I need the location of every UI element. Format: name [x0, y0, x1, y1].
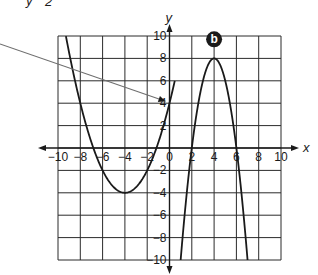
coordinate-plane: y 2 −10−8−6−4−20246810−10−8−6−4−2246810 … [0, 0, 318, 275]
header-fragment-left: y [25, 0, 34, 8]
x-tick-label: 10 [274, 150, 288, 164]
axes [38, 24, 299, 274]
x-axis-arrow-left-icon [38, 145, 46, 151]
x-axis-arrow-right-icon [291, 145, 299, 151]
x-tick-label: −10 [48, 150, 69, 164]
graph-figure: y 2 −10−8−6−4−20246810−10−8−6−4−2246810 … [0, 0, 318, 275]
marker-label: b [210, 32, 217, 46]
y-axis-arrow-down-icon [167, 266, 173, 274]
header-fragment-right: 2 [44, 0, 53, 9]
y-axis-label: y [165, 10, 174, 25]
y-tick-label: −6 [153, 208, 167, 222]
x-tick-label: −8 [73, 150, 87, 164]
x-tick-label: 0 [166, 150, 173, 164]
pointer-line [0, 44, 166, 101]
y-tick-label: 10 [153, 29, 167, 43]
y-tick-label: 8 [160, 51, 167, 65]
x-tick-label: 8 [255, 150, 262, 164]
marker-b-badge: b [206, 31, 222, 47]
x-tick-label: −4 [118, 150, 132, 164]
y-tick-label: −4 [153, 186, 167, 200]
pointer-arrow [0, 44, 166, 102]
y-tick-label: −8 [153, 231, 167, 245]
y-tick-label: −10 [146, 253, 167, 267]
y-tick-label: −2 [153, 163, 167, 177]
y-tick-label: 6 [160, 74, 167, 88]
x-tick-label: 4 [211, 150, 218, 164]
x-axis-label: x [302, 140, 310, 155]
y-axis-arrow-up-icon [167, 24, 173, 32]
